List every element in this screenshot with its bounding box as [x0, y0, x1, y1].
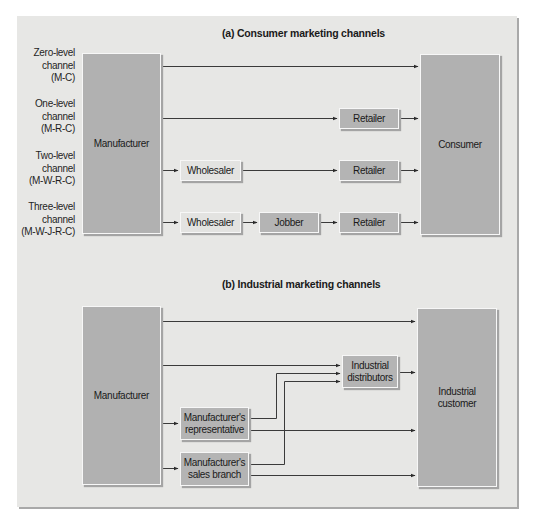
consumer-box: Consumer — [420, 54, 500, 235]
label-line: One-level — [15, 98, 75, 111]
channel-label-two-level: Two-level channel (M-W-R-C) — [15, 150, 75, 188]
retailer-label: Retailer — [353, 217, 385, 229]
label-line: representative — [185, 424, 244, 435]
jobber-box: Jobber — [259, 212, 319, 233]
label-line: Industrial — [438, 386, 476, 397]
retailer-box-one-level: Retailer — [339, 108, 399, 129]
label-line: channel — [15, 111, 75, 124]
channel-label-zero-level: Zero-level channel (M-C) — [15, 47, 75, 85]
label-line: Manufacturer's — [184, 412, 246, 423]
label-line: (M-W-J-R-C) — [15, 226, 75, 239]
industrial-customer-box: Industrial customer — [417, 308, 497, 487]
label-line: Zero-level — [15, 47, 75, 60]
channel-label-one-level: One-level channel (M-R-C) — [15, 98, 75, 136]
industrial-distributors-label: Industrial distributors — [347, 360, 392, 384]
label-line: Industrial — [351, 360, 389, 371]
wholesaler-box-three-level: Wholesaler — [180, 212, 241, 233]
manufacturer-box-industrial: Manufacturer — [82, 306, 161, 485]
wholesaler-label: Wholesaler — [187, 217, 234, 229]
wholesaler-box-two-level: Wholesaler — [180, 160, 241, 181]
label-line: (M-W-R-C) — [15, 175, 75, 188]
manufacturers-representative-label: Manufacturer's representative — [184, 412, 246, 436]
manufacturer-box-consumer: Manufacturer — [82, 53, 161, 234]
manufacturers-representative-box: Manufacturer's representative — [180, 407, 249, 440]
label-line: channel — [15, 214, 75, 227]
retailer-box-three-level: Retailer — [339, 212, 399, 233]
retailer-label: Retailer — [353, 113, 385, 125]
retailer-label: Retailer — [353, 165, 385, 177]
consumer-label: Consumer — [438, 139, 482, 151]
wholesaler-label: Wholesaler — [187, 165, 234, 177]
label-line: Two-level — [15, 150, 75, 163]
label-line: (M-C) — [15, 72, 75, 85]
manufacturers-sales-branch-box: Manufacturer's sales branch — [180, 452, 249, 486]
label-line: distributors — [347, 372, 392, 383]
manufacturer-label: Manufacturer — [94, 390, 149, 402]
label-line: channel — [15, 163, 75, 176]
industrial-customer-label: Industrial customer — [438, 386, 477, 410]
label-line: channel — [15, 60, 75, 73]
section-b-title: (b) Industrial marketing channels — [222, 278, 381, 290]
industrial-distributors-box: Industrial distributors — [342, 355, 398, 388]
label-line: customer — [438, 398, 477, 409]
retailer-box-two-level: Retailer — [339, 160, 399, 181]
manufacturers-sales-branch-label: Manufacturer's sales branch — [184, 457, 246, 481]
label-line: Three-level — [15, 201, 75, 214]
label-line: (M-R-C) — [15, 123, 75, 136]
channel-label-three-level: Three-level channel (M-W-J-R-C) — [15, 201, 75, 239]
jobber-label: Jobber — [275, 217, 304, 229]
manufacturer-label: Manufacturer — [94, 138, 149, 150]
section-a-title: (a) Consumer marketing channels — [222, 27, 385, 39]
label-line: Manufacturer's — [184, 457, 246, 468]
label-line: sales branch — [188, 469, 241, 480]
